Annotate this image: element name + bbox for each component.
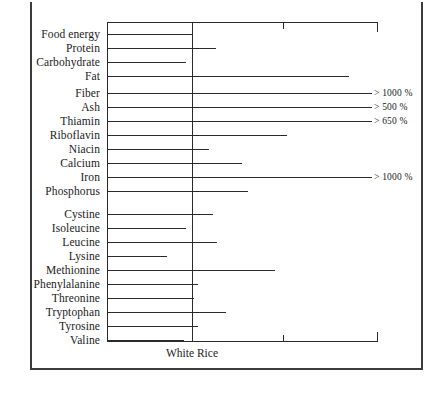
chart-bar xyxy=(107,256,167,257)
chart-axis-top xyxy=(107,22,378,23)
chart-row: Phenylalanine xyxy=(0,278,432,290)
chart-bar xyxy=(107,76,349,77)
chart-row-label: Carbohydrate xyxy=(0,56,100,68)
chart-row-label: Food energy xyxy=(0,28,100,40)
chart-bar xyxy=(107,62,186,63)
chart-bar xyxy=(107,326,198,327)
chart-row: Iron> 1000 % xyxy=(0,171,432,183)
chart-row: Protein xyxy=(0,42,432,54)
chart-row: Threonine xyxy=(0,292,432,304)
chart-row-label: Phosphorus xyxy=(0,185,100,197)
chart-bar-annotation: > 650 % xyxy=(374,115,408,127)
chart-bar xyxy=(107,214,213,215)
chart-row: Niacin xyxy=(0,143,432,155)
chart-row: Fat xyxy=(0,70,432,82)
chart-row: Isoleucine xyxy=(0,222,432,234)
chart-bar xyxy=(107,228,186,229)
chart-bar xyxy=(107,149,209,150)
chart-bar xyxy=(107,177,372,178)
chart-row: Fiber> 1000 % xyxy=(0,87,432,99)
chart-bar xyxy=(107,312,226,313)
chart-row-label: Isoleucine xyxy=(0,222,100,234)
reference-line-label: White Rice xyxy=(132,346,252,360)
chart-row: Tyrosine xyxy=(0,320,432,332)
chart-row: Tryptophan xyxy=(0,306,432,318)
chart-row-label: Riboflavin xyxy=(0,129,100,141)
chart-row: Ash> 500 % xyxy=(0,101,432,113)
chart-bar xyxy=(107,242,217,243)
chart-row: Riboflavin xyxy=(0,129,432,141)
chart-bar xyxy=(107,107,372,108)
chart-row: Cystine xyxy=(0,208,432,220)
chart-bar xyxy=(107,163,242,164)
chart-row-label: Iron xyxy=(0,171,100,183)
chart-bar-annotation: > 1000 % xyxy=(374,87,413,99)
chart-bar xyxy=(107,93,372,94)
chart-bar-annotation: > 500 % xyxy=(374,101,408,113)
chart-bar xyxy=(107,135,287,136)
chart-row-label: Phenylalanine xyxy=(0,278,100,290)
figure-container: Food energyProteinCarbohydrateFatFiber> … xyxy=(0,0,432,394)
chart-row-label: Thiamin xyxy=(0,115,100,127)
chart-row-label: Lysine xyxy=(0,250,100,262)
chart-bar xyxy=(107,340,184,341)
chart-bar xyxy=(107,191,248,192)
chart-row-label: Ash xyxy=(0,101,100,113)
chart-bar xyxy=(107,34,193,35)
chart-row-label: Fiber xyxy=(0,87,100,99)
chart-row: Food energy xyxy=(0,28,432,40)
chart-bar xyxy=(107,270,275,271)
chart-bar xyxy=(107,121,372,122)
chart-row-label: Tryptophan xyxy=(0,306,100,318)
chart-row-label: Tyrosine xyxy=(0,320,100,332)
chart-row: Carbohydrate xyxy=(0,56,432,68)
chart-row: Phosphorus xyxy=(0,185,432,197)
chart-bar xyxy=(107,284,198,285)
chart-row: Valine xyxy=(0,334,432,346)
chart-plot-area: Food energyProteinCarbohydrateFatFiber> … xyxy=(0,0,432,394)
chart-row-label: Leucine xyxy=(0,236,100,248)
chart-row-label: Threonine xyxy=(0,292,100,304)
chart-row-label: Fat xyxy=(0,70,100,82)
chart-row: Thiamin> 650 % xyxy=(0,115,432,127)
chart-bar xyxy=(107,298,194,299)
chart-row: Methionine xyxy=(0,264,432,276)
chart-row-label: Protein xyxy=(0,42,100,54)
chart-row: Lysine xyxy=(0,250,432,262)
chart-bar xyxy=(107,48,216,49)
chart-row: Leucine xyxy=(0,236,432,248)
chart-row: Calcium xyxy=(0,157,432,169)
chart-row-label: Cystine xyxy=(0,208,100,220)
chart-row-label: Methionine xyxy=(0,264,100,276)
chart-row-label: Calcium xyxy=(0,157,100,169)
chart-row-label: Valine xyxy=(0,334,100,346)
chart-row-label: Niacin xyxy=(0,143,100,155)
chart-bar-annotation: > 1000 % xyxy=(374,171,413,183)
